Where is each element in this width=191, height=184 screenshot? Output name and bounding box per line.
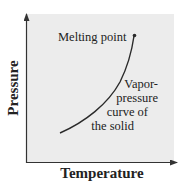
phase-diagram: Melting point Vapor- pressure curve of t… <box>0 0 191 184</box>
curve-label-line-1: Vapor- <box>124 77 158 91</box>
melting-point-label: Melting point <box>58 30 127 44</box>
curve-label-line-3: curve of <box>107 105 149 119</box>
y-axis-title: Pressure <box>5 60 21 116</box>
curve-label-line-4: the solid <box>91 119 134 133</box>
curve-label-line-2: pressure <box>116 91 158 105</box>
x-axis-title: Temperature <box>60 165 144 181</box>
melting-point-marker <box>133 34 137 38</box>
